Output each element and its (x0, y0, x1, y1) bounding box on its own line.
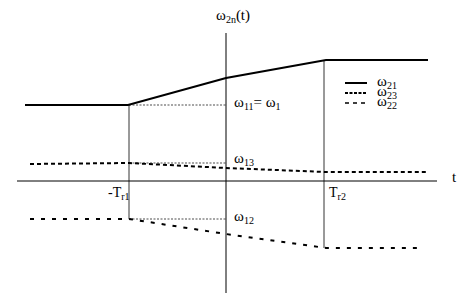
x-axis-label: t (452, 170, 456, 185)
annotation-omega13: ω13 (234, 151, 254, 168)
ann-main: ω (234, 150, 244, 166)
tick-neg-tr1: -Tr1 (108, 186, 130, 202)
y-label-symbol: ω (216, 7, 226, 23)
legend-main: ω (377, 93, 387, 109)
ann-main: ω (234, 208, 244, 224)
omega23-curve (30, 163, 428, 172)
annotation-omega11: ω11= ω1 (234, 95, 281, 112)
ann-mid: = ω (254, 94, 276, 110)
legend-item-omega22: ω22 (377, 94, 397, 111)
diagram-canvas: ω2n(t) t -Tr1 Tr2 ω11= ω1 ω13 ω12 ω21 ω2… (0, 0, 471, 308)
ann-sub2: 1 (276, 101, 281, 112)
ann-sub: 12 (244, 215, 254, 226)
ann-main: ω (234, 94, 244, 110)
ann-sub: 13 (244, 157, 254, 168)
tick-sub: r2 (338, 191, 346, 202)
tick-main: T (329, 185, 338, 200)
tick-main: -T (108, 185, 121, 200)
legend-sub: 22 (387, 100, 397, 111)
annotation-omega12: ω12 (234, 209, 254, 226)
y-label-sub: 2n (226, 14, 236, 25)
y-label-suffix: (t) (236, 7, 250, 23)
tick-tr2: Tr2 (329, 186, 346, 202)
tick-sub: r1 (121, 191, 129, 202)
ann-sub: 11 (244, 101, 254, 112)
y-axis-label: ω2n(t) (216, 8, 250, 25)
